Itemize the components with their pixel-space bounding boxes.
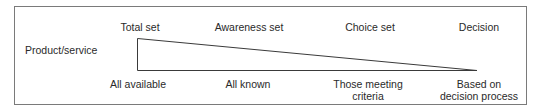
stage-description-based-on-line2: decision process: [440, 90, 518, 102]
stage-description-all-known: All known: [226, 78, 271, 90]
stage-description-those-meeting-line2: criteria: [352, 90, 384, 102]
stage-description-based-on-line1: Based on: [457, 78, 501, 90]
stage-description-all-available: All available: [110, 78, 166, 90]
stage-description-those-meeting-line1: Those meeting: [333, 78, 402, 90]
